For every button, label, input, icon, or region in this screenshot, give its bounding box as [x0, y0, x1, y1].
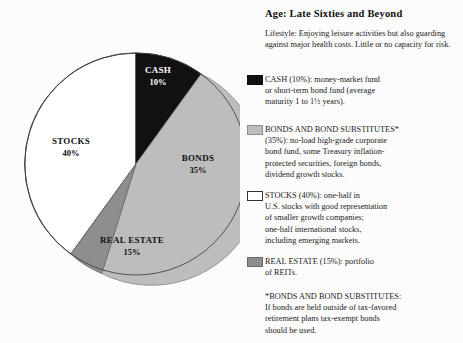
- footnote-line: *BONDS AND BOND SUBSTITUTES:: [265, 291, 461, 302]
- legend-item-stocks[interactable]: STOCKS (40%): one-half in U.S. stocks wi…: [247, 190, 461, 246]
- bonds-swatch: [247, 125, 263, 135]
- legend-item-stocks-text: STOCKS (40%): one-half in U.S. stocks wi…: [263, 190, 461, 246]
- legend-item-bonds[interactable]: BONDS AND BOND SUBSTITUTES* (35%): no-lo…: [247, 124, 461, 180]
- legend-line: REAL ESTATE (15%): portfolio: [265, 256, 461, 267]
- pie-chart: CASH 10% BONDS 35% STOCKS 40% REAL ESTAT…: [0, 0, 240, 343]
- footnote-line: If bonds are held outside of tax-favored: [265, 302, 461, 313]
- legend-line: protected securities, foreign bonds,: [265, 158, 461, 169]
- lifestyle-description: Lifestyle: Enjoying leisure activities b…: [265, 28, 451, 50]
- stocks-swatch: [247, 191, 263, 201]
- legend-line: bond fund, some Treasury inflation-: [265, 146, 461, 157]
- legend-line: dividend growth stocks.: [265, 169, 461, 180]
- legend-line: CASH (10%): money-market fund: [265, 74, 461, 85]
- page-root: CASH 10% BONDS 35% STOCKS 40% REAL ESTAT…: [0, 0, 463, 343]
- footnote-line: should be used.: [265, 325, 461, 336]
- legend-item-cash-text: CASH (10%): money-market fund or short-t…: [263, 74, 461, 108]
- footnote-line: retirement plans tax-exempt bonds: [265, 313, 461, 324]
- legend-item-bonds-text: BONDS AND BOND SUBSTITUTES* (35%): no-lo…: [263, 124, 461, 180]
- legend-line: of smaller growth companies;: [265, 212, 461, 223]
- legend-line: U.S. stocks with good representation: [265, 201, 461, 212]
- legend-line: one-half international stocks,: [265, 224, 461, 235]
- legend-line: including emerging markets.: [265, 235, 461, 246]
- legend-line: or short-term bond fund (average: [265, 85, 461, 96]
- legend-item-cash[interactable]: CASH (10%): money-market fund or short-t…: [247, 74, 461, 108]
- legend-line: (35%): no-load high-grade corporate: [265, 135, 461, 146]
- cash-swatch: [247, 75, 263, 85]
- real-estate-swatch: [247, 257, 263, 267]
- legend-line: maturity 1 to 1½ years).: [265, 96, 461, 107]
- legend-panel: Age: Late Sixties and Beyond Lifestyle: …: [245, 0, 463, 343]
- legend-line: STOCKS (40%): one-half in: [265, 190, 461, 201]
- page-title: Age: Late Sixties and Beyond: [265, 8, 402, 19]
- footnote: *BONDS AND BOND SUBSTITUTES: If bonds ar…: [265, 291, 461, 336]
- legend-line: BONDS AND BOND SUBSTITUTES*: [265, 124, 461, 135]
- pie-chart-svg: CASH 10% BONDS 35% STOCKS 40% REAL ESTAT…: [0, 0, 240, 343]
- legend-item-real-estate[interactable]: REAL ESTATE (15%): portfolio of REITs.: [247, 256, 461, 278]
- legend-item-real-estate-text: REAL ESTATE (15%): portfolio of REITs.: [263, 256, 461, 278]
- legend-line: of REITs.: [265, 267, 461, 278]
